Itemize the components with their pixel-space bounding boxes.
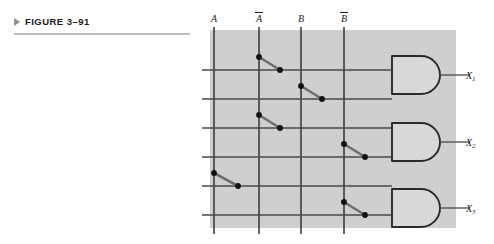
pla-logic-diagram: AABBX1X2X3 [0,0,494,244]
column-label-Bbar: B [341,13,347,24]
connection-dot-source-row-4 [341,141,347,147]
connection-dot-source-row-2 [298,83,304,89]
column-label-B: B [298,13,304,24]
column-label-Abar: A [255,13,263,24]
connection-dot-target-row-6 [362,212,368,218]
connection-dot-target-row-5 [235,183,241,189]
connection-dot-source-row-1 [256,54,262,60]
output-label-3: X3 [465,203,476,217]
connection-dot-source-row-6 [341,199,347,205]
output-label-1: X1 [465,70,476,84]
connection-dot-target-row-3 [277,125,283,131]
and-gate-1[interactable] [392,56,440,94]
connection-dot-source-row-3 [256,112,262,118]
and-gate-layer [392,56,470,227]
column-label-A: A [210,13,218,24]
connection-dot-source-row-5 [211,170,217,176]
figure-container: FIGURE 3–91 AABBX1X2X3 [0,0,494,244]
connection-dot-target-row-2 [319,96,325,102]
connection-dot-target-row-1 [277,67,283,73]
connection-dot-target-row-4 [362,154,368,160]
output-label-2: X2 [465,137,476,151]
and-gate-3[interactable] [392,189,440,227]
and-gate-2[interactable] [392,123,440,161]
